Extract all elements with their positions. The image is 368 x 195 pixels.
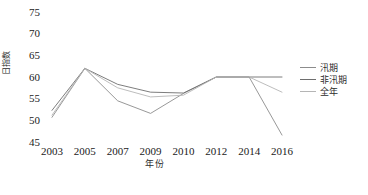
x-axis-tick: 2016 (271, 145, 293, 157)
series-line (52, 68, 282, 135)
legend-color-swatch (300, 67, 316, 68)
x-axis-tick: 2005 (74, 145, 96, 157)
legend-item-label: 全年 (320, 87, 338, 97)
series-line (52, 68, 282, 115)
legend-item-label: 汛期 (320, 63, 338, 73)
chart-legend: 汛期非汛期全年 (300, 62, 366, 98)
legend-item[interactable]: 全年 (300, 86, 366, 97)
legend-item[interactable]: 非汛期 (300, 74, 366, 85)
legend-color-swatch (300, 79, 316, 80)
x-axis-tick: 2009 (140, 145, 162, 157)
x-axis-tick: 2007 (107, 145, 129, 157)
x-axis-tick: 2003 (41, 145, 63, 157)
legend-item[interactable]: 汛期 (300, 62, 366, 73)
x-axis-title: 年份 (0, 159, 310, 170)
legend-item-label: 非汛期 (320, 75, 347, 85)
legend-color-swatch (300, 91, 316, 92)
x-axis-tick: 2010 (172, 145, 194, 157)
x-axis-tick: 2014 (238, 145, 260, 157)
x-axis-tick: 2012 (205, 145, 227, 157)
line-chart-figure: 日指数 75706560555045 200320052007200920102… (0, 0, 368, 195)
series-line (52, 68, 282, 110)
